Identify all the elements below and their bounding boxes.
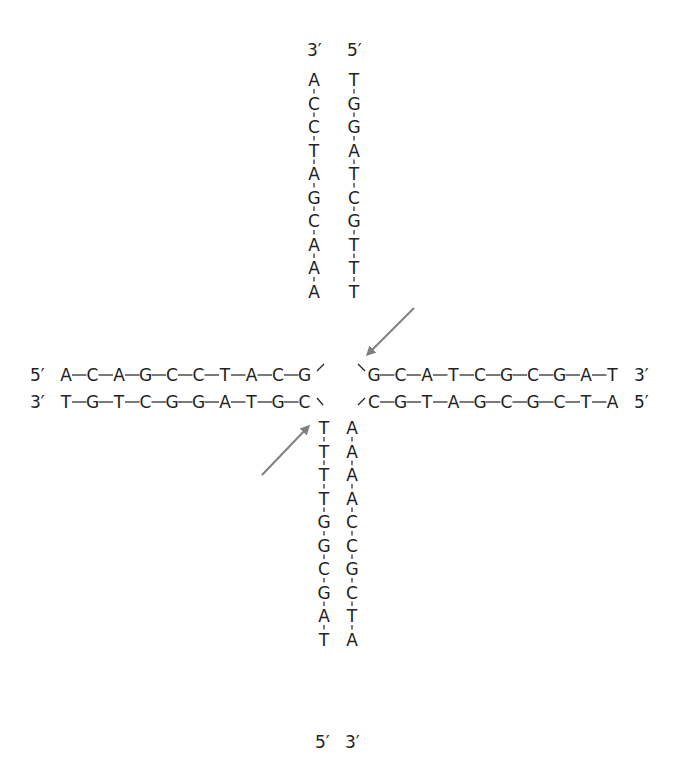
junction-link-top-right xyxy=(358,364,365,371)
junction-link-bottom-left xyxy=(317,398,323,405)
upper-right-arrow-icon xyxy=(368,308,414,354)
junction-link-bottom-right xyxy=(358,398,365,405)
lower-left-arrow-icon xyxy=(262,427,308,475)
junction-link-top-left xyxy=(317,364,324,371)
bonds-and-arrows xyxy=(0,0,675,763)
